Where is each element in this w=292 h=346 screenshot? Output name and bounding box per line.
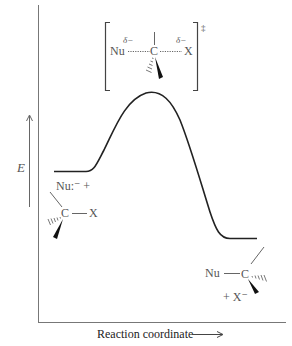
products: Nu C + X⁻: [205, 247, 267, 304]
reactant-bond-up: [50, 192, 62, 207]
x-axis-label: Reaction coordinate: [97, 327, 193, 341]
ts-hashed-wedge: [146, 58, 154, 73]
reactants: Nu:⁻ + C X: [48, 179, 98, 239]
ts-x-label: X: [184, 44, 193, 58]
reactant-hashed-wedge: [48, 217, 61, 225]
product-solid-wedge: [248, 279, 259, 294]
reactant-solid-wedge: [53, 219, 63, 239]
reactant-nucleophile: Nu:⁻ +: [56, 179, 90, 193]
energy-diagram: E Reaction coordinate ‡ Nu δ− C δ− X Nu:: [0, 0, 292, 346]
double-dagger-symbol: ‡: [201, 23, 206, 33]
product-leaving-group: + X⁻: [223, 290, 248, 304]
transition-state: ‡ Nu δ− C δ− X: [106, 23, 207, 91]
reaction-coordinate-arrow-icon: [192, 332, 223, 338]
energy-curve: [54, 92, 257, 238]
product-c-label: C: [241, 267, 249, 281]
y-axis-label: E: [16, 160, 25, 175]
ts-c-label: C: [150, 44, 158, 58]
reactant-x-label: X: [89, 206, 98, 220]
product-hashed-wedge: [252, 275, 267, 282]
ts-nu-label: Nu: [110, 44, 125, 58]
ts-delta-nu: δ−: [123, 35, 133, 45]
product-bond-up: [251, 247, 264, 264]
ts-solid-wedge: [155, 57, 163, 79]
product-nu-label: Nu: [205, 266, 220, 280]
right-bracket: [193, 23, 198, 91]
energy-arrow-icon: [27, 115, 33, 207]
reactant-c-label: C: [61, 206, 69, 220]
